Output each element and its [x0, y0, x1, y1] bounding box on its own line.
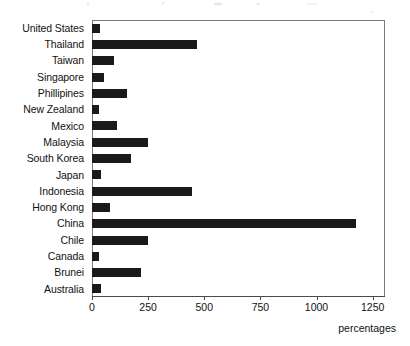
- bar-row: [92, 216, 385, 232]
- bar-row: [92, 150, 385, 166]
- x-axis-tick: [373, 296, 374, 300]
- y-axis-label: Singapore: [0, 69, 88, 85]
- y-axis-category-labels: United StatesThailandTaiwanSingaporePhil…: [0, 20, 88, 297]
- x-axis-tick: [204, 296, 205, 300]
- bar-chart: United StatesThailandTaiwanSingaporePhil…: [0, 0, 410, 346]
- y-axis-label: South Korea: [0, 150, 88, 166]
- y-axis-label: United States: [0, 20, 88, 36]
- bar-row: [92, 20, 385, 36]
- y-axis-label: Brunei: [0, 264, 88, 280]
- x-axis-tick-label: 500: [195, 301, 213, 313]
- bar: [92, 219, 356, 228]
- bar: [92, 56, 114, 65]
- bars-container: [92, 20, 385, 297]
- y-axis-label: Phillipines: [0, 85, 88, 101]
- bar: [92, 154, 131, 163]
- bar-row: [92, 134, 385, 150]
- bar: [92, 105, 99, 114]
- bar-row: [92, 248, 385, 264]
- bar-row: [92, 53, 385, 69]
- y-axis-label: Malaysia: [0, 134, 88, 150]
- x-axis-tick-label: 250: [139, 301, 157, 313]
- bar-row: [92, 85, 385, 101]
- y-axis-label: Taiwan: [0, 53, 88, 69]
- bar-row: [92, 264, 385, 280]
- bar: [92, 236, 148, 245]
- bar-row: [92, 281, 385, 297]
- x-axis-title: percentages: [338, 322, 396, 334]
- bar: [92, 203, 110, 212]
- y-axis-label: China: [0, 216, 88, 232]
- x-axis-tick: [92, 296, 93, 300]
- y-axis-label: Japan: [0, 167, 88, 183]
- bar-row: [92, 36, 385, 52]
- bar-row: [92, 167, 385, 183]
- x-axis-tick-label: 1000: [305, 301, 328, 313]
- scan-artifact: [0, 0, 410, 14]
- bar: [92, 284, 101, 293]
- x-axis-tick-label: 0: [89, 301, 95, 313]
- bar: [92, 73, 104, 82]
- bar-row: [92, 101, 385, 117]
- y-axis-label: Mexico: [0, 118, 88, 134]
- bar: [92, 187, 192, 196]
- bar: [92, 121, 117, 130]
- x-axis-tick-label: 750: [252, 301, 270, 313]
- x-axis-tick: [317, 296, 318, 300]
- y-axis-label: Australia: [0, 281, 88, 297]
- x-axis-tick-label: 1250: [361, 301, 384, 313]
- bar: [92, 40, 197, 49]
- bar-row: [92, 232, 385, 248]
- bar-row: [92, 69, 385, 85]
- x-axis-line: [92, 296, 385, 297]
- bar: [92, 252, 99, 261]
- y-axis-label: Indonesia: [0, 183, 88, 199]
- x-axis-tick: [148, 296, 149, 300]
- bar: [92, 170, 101, 179]
- bar: [92, 24, 100, 33]
- bar: [92, 89, 127, 98]
- bar: [92, 138, 148, 147]
- y-axis-label: Canada: [0, 248, 88, 264]
- bar-row: [92, 118, 385, 134]
- y-axis-label: Thailand: [0, 36, 88, 52]
- x-axis-tick: [260, 296, 261, 300]
- y-axis-label: Chile: [0, 232, 88, 248]
- bar-row: [92, 199, 385, 215]
- bar-row: [92, 183, 385, 199]
- bar: [92, 268, 141, 277]
- y-axis-label: Hong Kong: [0, 199, 88, 215]
- y-axis-label: New Zealand: [0, 101, 88, 117]
